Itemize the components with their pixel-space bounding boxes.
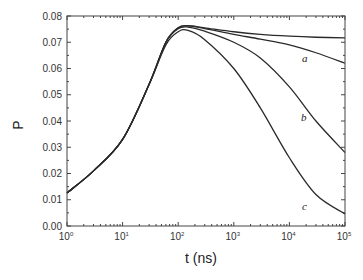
x-axis-title: t (ns) xyxy=(185,250,217,266)
y-tick-label: 0.08 xyxy=(43,11,63,22)
y-tick-label: 0.01 xyxy=(43,194,63,205)
x-tick-labels: 100101102103104105 xyxy=(59,231,352,242)
chart: 0.000.010.020.030.040.050.060.070.08 100… xyxy=(0,0,363,280)
y-tick-label: 0.05 xyxy=(43,89,63,100)
x-tick-label: 101 xyxy=(114,231,129,242)
y-tick-label: 0.00 xyxy=(43,221,63,232)
y-tick-label: 0.06 xyxy=(43,63,63,74)
curve-a xyxy=(67,26,345,193)
x-tick-label: 103 xyxy=(226,231,241,242)
curve-label-b: b xyxy=(301,111,307,123)
y-tick-label: 0.02 xyxy=(43,168,63,179)
y-tick-label: 0.07 xyxy=(43,37,63,48)
x-tick-label: 102 xyxy=(170,231,185,242)
curve-label-a: a xyxy=(302,52,308,64)
x-tick-label: 100 xyxy=(59,231,74,242)
curve-top xyxy=(67,26,345,193)
y-axis-title: P xyxy=(10,120,26,129)
curve-label-c: c xyxy=(302,200,307,212)
y-tick-labels: 0.000.010.020.030.040.050.060.070.08 xyxy=(43,11,63,232)
y-tick-label: 0.03 xyxy=(43,142,63,153)
x-tick-label: 104 xyxy=(281,231,296,242)
y-tick-label: 0.04 xyxy=(43,116,63,127)
x-tick-label: 105 xyxy=(337,231,352,242)
